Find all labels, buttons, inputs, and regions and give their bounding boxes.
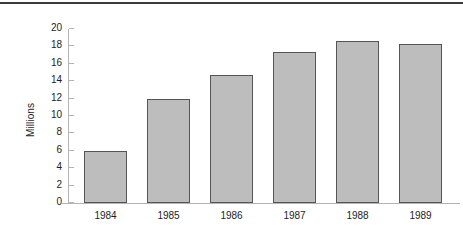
y-axis-tick-mark [69,98,74,99]
y-axis-tick-mark [69,63,74,64]
y-axis-tick-mark [69,80,74,81]
top-divider-rule [0,2,463,4]
bar [210,75,253,203]
x-axis-line [62,203,460,204]
y-axis-tick-mark [69,28,74,29]
y-axis-tick-mark [69,45,74,46]
y-axis-tick-label: 2 [0,179,62,191]
y-axis-line [68,29,69,204]
y-axis-tick-label: 10 [0,109,62,121]
y-axis-tick-mark [69,167,74,168]
y-axis-tick-mark [69,115,74,116]
x-axis-tick-label: 1986 [210,210,253,222]
x-axis-tick-label: 1989 [399,210,442,222]
y-axis-tick-mark [69,132,74,133]
x-axis-tick-label: 1985 [147,210,190,222]
y-axis-tick-label: 6 [0,144,62,156]
bar [147,99,190,203]
y-axis-tick-label: 8 [0,126,62,138]
bar [273,52,316,203]
y-axis-tick-label: 4 [0,161,62,173]
y-axis-tick-label: 0 [0,196,62,208]
y-axis-tick-mark [69,150,74,151]
y-axis-tick-label: 18 [0,39,62,51]
bar [399,44,442,203]
y-axis-tick-mark [69,202,74,203]
y-axis-tick-label: 12 [0,92,62,104]
y-axis-tick-label: 16 [0,57,62,69]
x-axis-tick-label: 1987 [273,210,316,222]
bar [84,151,127,203]
y-axis-tick-mark [69,185,74,186]
bar [336,41,379,203]
bar-chart-figure: Millions 20181614121086420 1984198519861… [0,0,463,231]
x-axis-tick-label: 1984 [84,210,127,222]
x-axis-tick-label: 1988 [336,210,379,222]
y-axis-tick-label: 14 [0,74,62,86]
y-axis-tick-label: 20 [0,22,62,34]
